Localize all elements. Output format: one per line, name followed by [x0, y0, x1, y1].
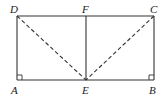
label-f: F [81, 3, 89, 15]
segment-ce-dashed [86, 16, 154, 80]
segment-de-dashed [17, 16, 86, 80]
geometry-diagram: D F C A E B [0, 0, 167, 101]
label-a: A [10, 84, 18, 96]
label-c: C [150, 3, 158, 15]
right-angle-mark-b [149, 75, 154, 80]
right-angle-mark-a [17, 75, 22, 80]
label-e: E [81, 84, 89, 96]
label-d: D [9, 3, 18, 15]
label-b: B [149, 84, 156, 96]
